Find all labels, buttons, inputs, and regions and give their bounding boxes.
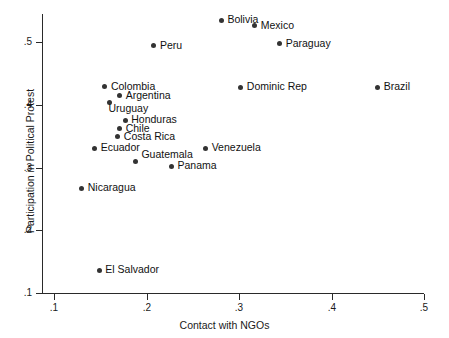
data-point-marker (277, 41, 282, 46)
data-point-marker (117, 126, 122, 131)
scatter-plot-figure: .1.2.3.4.5 .1.2.3.4.5 BoliviaMexicoParag… (0, 0, 449, 338)
data-point-marker (219, 18, 224, 23)
data-point-label: Guatemala (141, 148, 192, 160)
data-point-label: Brazil (384, 80, 410, 92)
x-axis-line (42, 293, 424, 294)
data-point-marker (97, 268, 102, 273)
data-point-label: Panama (177, 159, 216, 171)
y-axis-title: Participation in Political Protest (24, 46, 36, 276)
data-point-label: Paraguay (286, 37, 331, 49)
data-point-label: Mexico (261, 19, 294, 31)
data-point-label: Venezuela (212, 141, 261, 153)
data-point-marker (133, 159, 138, 164)
data-point-label: Ecuador (101, 141, 140, 153)
x-tick-label: .1 (39, 302, 69, 313)
y-tick-mark (36, 42, 42, 43)
data-point-marker (151, 43, 156, 48)
data-point-label: Peru (160, 39, 182, 51)
data-point-marker (169, 164, 174, 169)
plot-area: .1.2.3.4.5 .1.2.3.4.5 BoliviaMexicoParag… (0, 0, 449, 338)
data-point-label: Costa Rica (124, 130, 175, 142)
data-point-marker (102, 84, 107, 89)
data-point-marker (252, 23, 257, 28)
x-tick-label: .2 (132, 302, 162, 313)
data-point-label: Argentina (126, 89, 171, 101)
x-tick-label: .5 (409, 302, 439, 313)
data-point-label: Uruguay (109, 102, 149, 114)
x-tick-mark (54, 294, 55, 300)
x-tick-mark (332, 294, 333, 300)
y-axis-line (42, 14, 43, 294)
data-point-marker (115, 134, 120, 139)
data-point-label: Dominic Rep (247, 80, 307, 92)
y-tick-label: .1 (6, 287, 32, 298)
data-point-marker (117, 93, 122, 98)
x-tick-label: .3 (224, 302, 254, 313)
x-tick-mark (147, 294, 148, 300)
data-point-marker (203, 146, 208, 151)
data-point-label: Nicaragua (88, 181, 136, 193)
data-point-marker (238, 85, 243, 90)
y-tick-mark (36, 293, 42, 294)
y-tick-mark (36, 105, 42, 106)
data-point-marker (92, 146, 97, 151)
y-tick-mark (36, 230, 42, 231)
data-point-marker (375, 85, 380, 90)
x-tick-mark (424, 294, 425, 300)
x-axis-title: Contact with NGOs (0, 319, 449, 331)
data-point-marker (79, 186, 84, 191)
y-tick-mark (36, 168, 42, 169)
x-tick-mark (239, 294, 240, 300)
x-tick-label: .4 (317, 302, 347, 313)
data-point-label: El Salvador (105, 263, 159, 275)
